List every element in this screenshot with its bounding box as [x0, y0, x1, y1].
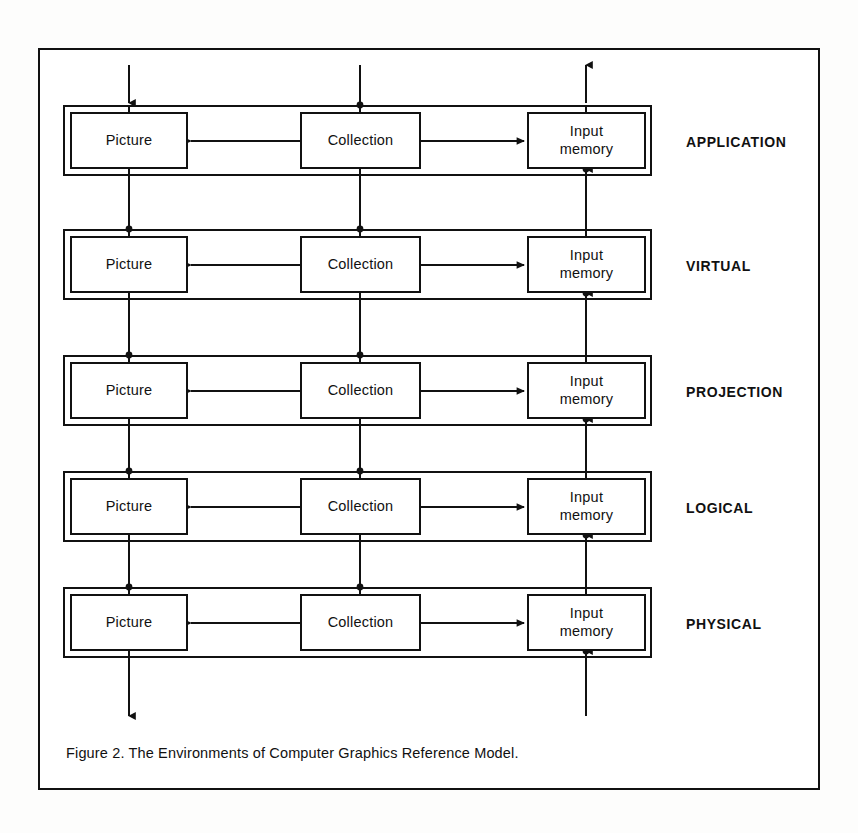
node-label: Collection	[328, 256, 394, 273]
node-picture-projection[interactable]: Picture	[70, 362, 188, 419]
node-input-memory-virtual[interactable]: Input memory	[527, 236, 646, 293]
node-collection-virtual[interactable]: Collection	[300, 236, 421, 293]
node-collection-physical[interactable]: Collection	[300, 594, 421, 651]
tier-label-logical: LOGICAL	[686, 500, 753, 516]
node-picture-application[interactable]: Picture	[70, 112, 188, 169]
node-label-line2: memory	[560, 623, 614, 639]
node-label-line2: memory	[560, 507, 614, 523]
node-label: Input memory	[560, 123, 614, 157]
node-label-line1: Input	[570, 373, 603, 389]
tier-label-virtual: VIRTUAL	[686, 258, 751, 274]
node-input-memory-physical[interactable]: Input memory	[527, 594, 646, 651]
node-label: Picture	[106, 132, 153, 149]
figure-page: Picture Collection Input memory APPLICAT…	[0, 0, 858, 833]
node-label: Input memory	[560, 489, 614, 523]
node-label-line2: memory	[560, 391, 614, 407]
node-label: Collection	[328, 382, 394, 399]
node-label-line1: Input	[570, 123, 603, 139]
node-label: Collection	[328, 498, 394, 515]
node-label: Picture	[106, 382, 153, 399]
node-label: Input memory	[560, 373, 614, 407]
node-collection-application[interactable]: Collection	[300, 112, 421, 169]
node-label-line1: Input	[570, 489, 603, 505]
node-picture-physical[interactable]: Picture	[70, 594, 188, 651]
node-picture-logical[interactable]: Picture	[70, 478, 188, 535]
node-label-line2: memory	[560, 265, 614, 281]
node-label: Picture	[106, 256, 153, 273]
tier-label-application: APPLICATION	[686, 134, 786, 150]
tier-label-projection: PROJECTION	[686, 384, 783, 400]
node-label: Collection	[328, 614, 394, 631]
node-input-memory-projection[interactable]: Input memory	[527, 362, 646, 419]
node-input-memory-logical[interactable]: Input memory	[527, 478, 646, 535]
node-label: Picture	[106, 614, 153, 631]
node-label: Input memory	[560, 247, 614, 281]
tier-label-physical: PHYSICAL	[686, 616, 762, 632]
node-picture-virtual[interactable]: Picture	[70, 236, 188, 293]
node-label-line1: Input	[570, 247, 603, 263]
node-label-line2: memory	[560, 141, 614, 157]
node-label: Input memory	[560, 605, 614, 639]
node-collection-logical[interactable]: Collection	[300, 478, 421, 535]
node-label: Picture	[106, 498, 153, 515]
node-label-line1: Input	[570, 605, 603, 621]
figure-caption: Figure 2. The Environments of Computer G…	[66, 745, 519, 761]
node-input-memory-application[interactable]: Input memory	[527, 112, 646, 169]
node-label: Collection	[328, 132, 394, 149]
node-collection-projection[interactable]: Collection	[300, 362, 421, 419]
